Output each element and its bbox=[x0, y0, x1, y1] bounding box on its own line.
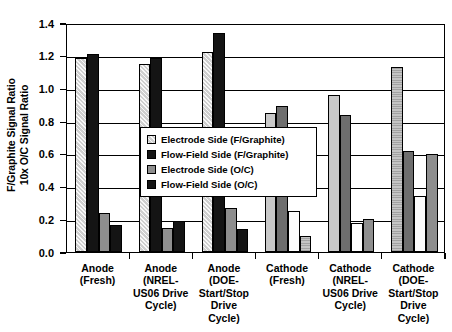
legend-item-label: Flow-Field Side (O/C) bbox=[161, 180, 257, 190]
bar bbox=[110, 225, 122, 252]
legend-item-label: Flow-Field Side (F/Graphite) bbox=[161, 150, 288, 160]
bar-group bbox=[383, 25, 446, 252]
legend-item: Flow-Field Side (F/Graphite) bbox=[147, 147, 311, 162]
bar bbox=[87, 54, 99, 252]
bar-group bbox=[67, 25, 130, 252]
bar-group bbox=[320, 25, 383, 252]
y-axis-tick-label: 0.8 bbox=[24, 117, 54, 128]
bar bbox=[300, 236, 312, 252]
bar bbox=[391, 67, 403, 252]
bar bbox=[403, 151, 415, 252]
y-axis-tick-label: 0.0 bbox=[24, 248, 54, 259]
legend-item: Electrode Side (O/C) bbox=[147, 162, 311, 177]
bar bbox=[288, 211, 300, 252]
x-axis-tick bbox=[381, 253, 382, 259]
legend-item-label: Electrode Side (F/Graphite) bbox=[161, 135, 285, 145]
legend-item: Flow-Field Side (O/C) bbox=[147, 177, 311, 192]
bar bbox=[225, 208, 237, 252]
legend-item: Electrode Side (F/Graphite) bbox=[147, 132, 311, 147]
x-axis-tick bbox=[444, 253, 445, 259]
x-axis-tick bbox=[129, 253, 130, 259]
bar bbox=[328, 95, 340, 252]
bar bbox=[99, 213, 111, 252]
bar bbox=[75, 58, 87, 252]
legend-swatch-icon bbox=[147, 165, 156, 174]
y-axis-tick-label: 0.6 bbox=[24, 149, 54, 160]
legend-swatch-icon bbox=[147, 180, 156, 189]
x-axis-label: Cathode (DOE- Start/Stop Drive Cycle) bbox=[376, 262, 451, 324]
y-axis-title: F/Graphite Signal Ratio 10x O/C Signal R… bbox=[5, 35, 39, 235]
bar-chart: F/Graphite Signal Ratio 10x O/C Signal R… bbox=[0, 0, 452, 332]
legend-swatch-icon bbox=[147, 150, 156, 159]
legend-item-label: Electrode Side (O/C) bbox=[161, 165, 254, 175]
bar bbox=[162, 228, 174, 252]
x-axis-tick bbox=[192, 253, 193, 259]
bar bbox=[351, 223, 363, 252]
y-axis-tick-label: 1.4 bbox=[24, 19, 54, 30]
legend: Electrode Side (F/Graphite)Flow-Field Si… bbox=[140, 127, 317, 197]
y-axis-tick-label: 0.2 bbox=[24, 215, 54, 226]
bar bbox=[426, 154, 438, 252]
bar bbox=[340, 115, 352, 252]
y-axis-tick-label: 1.0 bbox=[24, 84, 54, 95]
x-axis-tick bbox=[255, 253, 256, 259]
y-axis-tick-label: 0.4 bbox=[24, 182, 54, 193]
bar bbox=[173, 221, 185, 252]
bar bbox=[237, 229, 249, 252]
x-axis-tick bbox=[318, 253, 319, 259]
y-axis-tick-label: 1.2 bbox=[24, 51, 54, 62]
legend-swatch-icon bbox=[147, 135, 156, 144]
bar bbox=[414, 196, 426, 252]
bar bbox=[363, 219, 375, 252]
